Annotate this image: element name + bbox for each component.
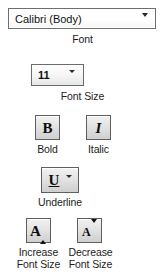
font-size-combobox[interactable]: 11 [31, 64, 84, 86]
italic-caption: Italic [74, 143, 123, 155]
triangle-up-glyph [40, 223, 46, 244]
font-size-caption: Font Size [0, 90, 165, 102]
decrease-font-size-caption-line2: Font Size [64, 258, 117, 270]
font-size-value: 11 [38, 68, 50, 82]
font-name-value: Calibri (Body) [15, 12, 82, 26]
chevron-down-glyph [66, 175, 72, 195]
underline-button[interactable]: U [41, 167, 79, 193]
increase-font-size-caption-line2: Font Size [12, 258, 65, 270]
chevron-down-glyph [142, 13, 148, 34]
bold-icon: B [36, 119, 59, 138]
increase-font-size-caption-line1: Increase [19, 246, 58, 258]
underline-caption: Underline [14, 196, 106, 208]
triangle-down-glyph [91, 219, 97, 240]
decrease-font-size-caption-line1: Decrease [68, 246, 112, 258]
triangle-down-icon [91, 223, 97, 241]
decrease-font-size-icon: A [82, 224, 91, 241]
underline-icon: U [44, 171, 64, 189]
font-name-combobox[interactable]: Calibri (Body) [8, 8, 156, 29]
decrease-font-size-button[interactable]: A [77, 218, 102, 243]
italic-icon: I [87, 119, 110, 138]
triangle-up-icon [40, 223, 46, 241]
bold-button[interactable]: B [35, 115, 60, 140]
chevron-down-icon[interactable] [66, 178, 72, 196]
chevron-down-glyph [69, 70, 75, 90]
chevron-down-icon[interactable] [69, 73, 75, 91]
bold-caption: Bold [23, 143, 72, 155]
decrease-font-size-caption: Decrease Font Size [64, 246, 117, 270]
font-name-caption: Font [0, 33, 165, 45]
increase-font-size-button[interactable]: A [26, 218, 51, 243]
italic-button[interactable]: I [86, 115, 111, 140]
increase-font-size-caption: Increase Font Size [12, 246, 65, 270]
